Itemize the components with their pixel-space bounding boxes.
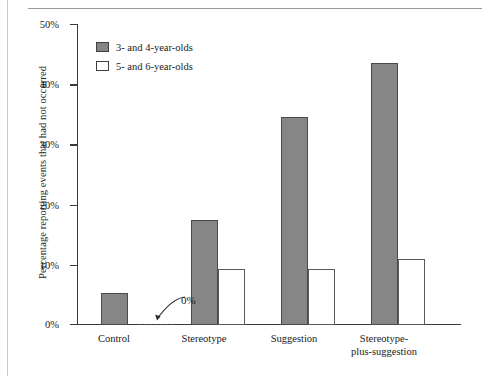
- legend-label-5and6: 5- and 6-year-olds: [116, 61, 193, 72]
- chart-legend: 3- and 4-year-olds 5- and 6-year-olds: [96, 39, 193, 77]
- filled-gray-swatch-icon: [96, 42, 109, 52]
- y-tick-label-30: 30%: [40, 139, 59, 150]
- y-tick-label-20: 20%: [40, 199, 59, 210]
- x-label-sps-line1: Stereotype-: [324, 333, 444, 346]
- bar-stereotype-plus-suggestion-5and6[interactable]: [398, 259, 425, 325]
- bar-stereotype-5and6[interactable]: [218, 269, 245, 325]
- bar-control-3and4[interactable]: [101, 293, 128, 325]
- y-tick-label-0: 0%: [45, 319, 59, 330]
- x-label-sps-line2: plus-suggestion: [324, 346, 444, 359]
- legend-label-3and4: 3- and 4-year-olds: [116, 42, 193, 53]
- y-tick-label-40: 40%: [40, 79, 59, 90]
- x-label-stereotype-plus-suggestion: Stereotype- plus-suggestion: [324, 333, 444, 358]
- zero-annotation-label: 0%: [181, 294, 196, 306]
- bar-suggestion-5and6[interactable]: [308, 269, 335, 325]
- figure-top-rule: [28, 8, 482, 9]
- empty-white-swatch-icon: [96, 61, 109, 71]
- legend-item-3and4[interactable]: 3- and 4-year-olds: [96, 39, 193, 55]
- bar-stereotype-3and4[interactable]: [191, 220, 218, 325]
- y-tick-label-10: 10%: [40, 259, 59, 270]
- legend-item-5and6[interactable]: 5- and 6-year-olds: [96, 58, 193, 74]
- chart-figure: Percentage reporting events that had not…: [0, 0, 482, 376]
- page-edge-rule: [7, 0, 8, 376]
- plot-area: 50% 40% 30% 20% 10% 0%: [77, 24, 461, 325]
- bar-suggestion-3and4[interactable]: [281, 117, 308, 325]
- y-tick-label-50: 50%: [40, 19, 59, 30]
- bar-stereotype-plus-suggestion-3and4[interactable]: [371, 63, 398, 325]
